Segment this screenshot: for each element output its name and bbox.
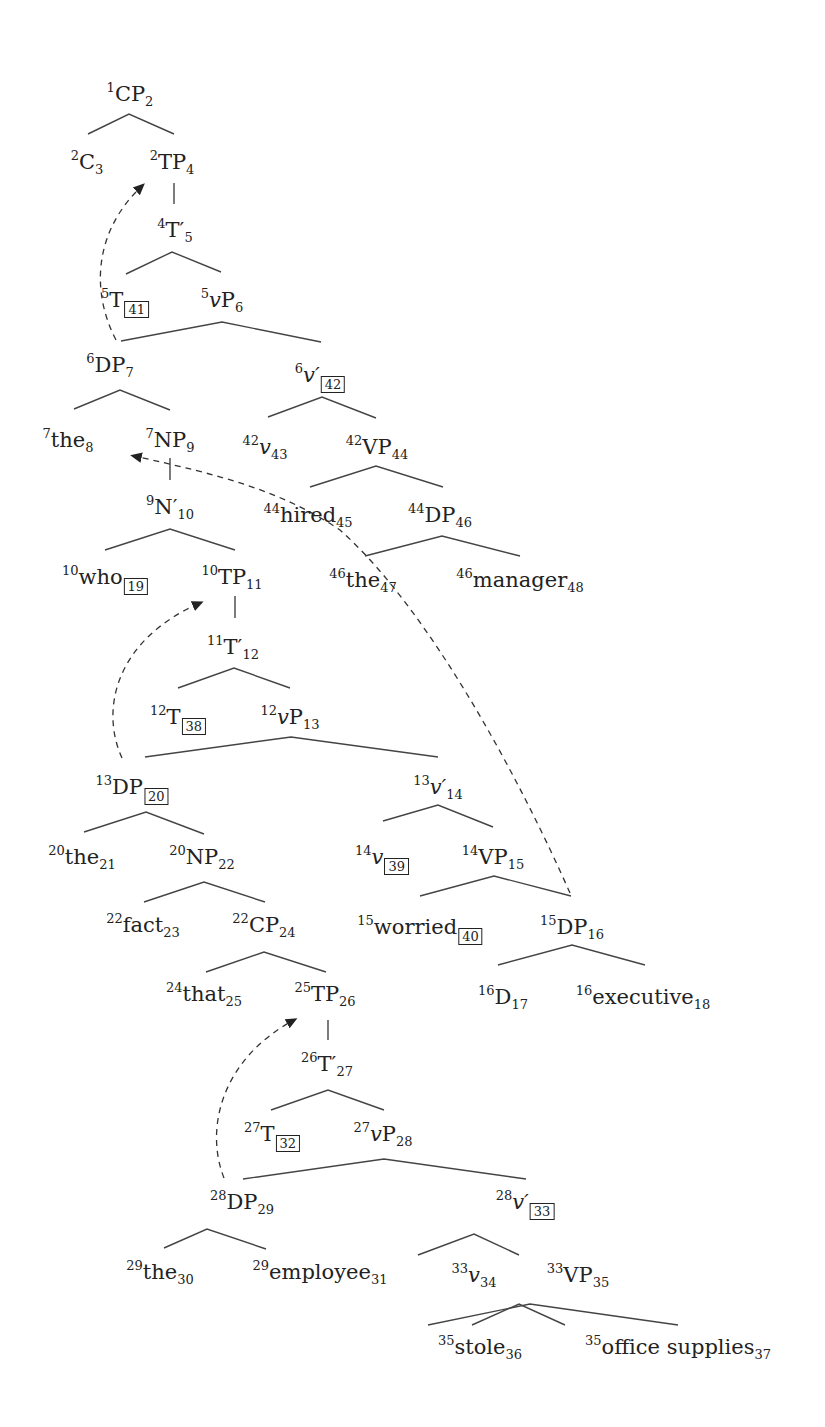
movement-arrow-dp29-to-tp26 (217, 1020, 294, 1178)
node-category: NP (154, 428, 187, 452)
node-post-index: 9 (186, 440, 194, 455)
node-category: DP (112, 775, 143, 799)
node-category: D (495, 985, 512, 1009)
node-post-index: 36 (506, 1347, 523, 1362)
node-category: manager (473, 568, 567, 592)
tree-node-dp2: 13DP20 (95, 775, 168, 805)
node-post-index: 25 (225, 994, 242, 1009)
tree-node-cp: 1CP2 (107, 82, 154, 106)
boxed-index: 32 (276, 1135, 301, 1152)
tree-node-nbar: 9N′10 (146, 495, 194, 519)
node-pre-index: 27 (353, 1120, 370, 1135)
node-category: v (372, 845, 384, 869)
node-post-index: 44 (392, 447, 409, 462)
node-pre-index: 27 (244, 1120, 261, 1135)
node-pre-index: 24 (166, 980, 183, 995)
node-category: the (143, 1260, 177, 1284)
tree-node-vp_w: 14VP15 (462, 845, 524, 869)
tree-edges (0, 0, 825, 1427)
node-pre-index: 16 (576, 983, 593, 998)
node-pre-index: 14 (462, 843, 479, 858)
tree-node-v2: 14v39 (355, 845, 409, 875)
node-post-index: 47 (380, 580, 397, 595)
node-pre-index: 12 (150, 703, 167, 718)
tree-node-tp3: 25TP26 (294, 982, 355, 1006)
node-category: office supplies (602, 1335, 755, 1359)
node-pre-index: 11 (207, 633, 224, 648)
node-pre-index: 16 (478, 983, 495, 998)
node-post-index: 3 (95, 162, 103, 177)
node-pre-index: 44 (408, 501, 425, 516)
node-pre-index: 33 (452, 1261, 469, 1276)
tree-node-worried: 15worried40 (357, 915, 482, 945)
tree-node-t2: 12T38 (150, 705, 206, 735)
boxed-index: 41 (124, 301, 149, 318)
node-post-index: 34 (480, 1275, 497, 1290)
node-category: vP (209, 288, 235, 312)
node-post-index: 11 (246, 577, 263, 592)
tree-node-employee: 29employee31 (253, 1260, 388, 1284)
tree-node-v1: 42v43 (243, 435, 288, 459)
node-category: TP (218, 565, 246, 589)
tree-node-np2: 20NP22 (169, 845, 235, 869)
node-category: the (346, 568, 380, 592)
node-category: T′ (224, 635, 243, 659)
node-post-index: 14 (446, 787, 463, 802)
node-post-index: 28 (396, 1134, 413, 1149)
tree-node-the2: 20the21 (48, 845, 116, 869)
node-pre-index: 44 (263, 501, 280, 516)
node-category: VP (362, 435, 391, 459)
node-pre-index: 25 (294, 980, 311, 995)
node-post-index: 30 (177, 1272, 194, 1287)
node-pre-index: 22 (232, 911, 249, 926)
branch-lines-bottom (428, 1304, 678, 1325)
node-category: v′ (512, 1190, 529, 1214)
node-category: fact (123, 913, 164, 937)
tree-node-dp_e: 15DP16 (540, 915, 604, 939)
node-category: CP (115, 82, 145, 106)
tree-node-c: 2C3 (71, 150, 104, 174)
tree-node-vp2: 12vP13 (260, 705, 319, 729)
node-post-index: 10 (177, 507, 194, 522)
tree-node-vbar2: 13v′14 (413, 775, 463, 799)
tree-node-dp1: 6DP7 (86, 353, 134, 377)
node-pre-index: 20 (48, 843, 65, 858)
node-pre-index: 22 (106, 911, 123, 926)
node-pre-index: 28 (210, 1188, 227, 1203)
tree-node-vp_s: 33VP35 (547, 1263, 609, 1287)
node-category: that (183, 982, 226, 1006)
node-post-index: 48 (567, 580, 584, 595)
node-pre-index: 42 (243, 433, 260, 448)
node-category: CP (249, 913, 279, 937)
node-category: the (65, 845, 99, 869)
node-post-index: 15 (508, 857, 525, 872)
node-category: T (260, 1122, 274, 1146)
tree-node-tp1: 2TP4 (150, 150, 195, 174)
tree-node-v3: 33v34 (452, 1263, 497, 1287)
node-pre-index: 14 (355, 843, 372, 858)
node-post-index: 5 (184, 230, 192, 245)
node-pre-index: 29 (126, 1258, 143, 1273)
node-category: T (166, 705, 180, 729)
node-pre-index: 46 (456, 566, 473, 581)
node-post-index: 46 (455, 515, 472, 530)
node-post-index: 12 (242, 647, 259, 662)
node-pre-index: 15 (357, 913, 374, 928)
node-category: VP (563, 1263, 592, 1287)
node-pre-index: 13 (413, 773, 430, 788)
boxed-index: 39 (384, 858, 409, 875)
boxed-index: 33 (530, 1203, 555, 1220)
tree-node-who: 10who19 (62, 565, 148, 595)
node-post-index: 2 (145, 94, 153, 109)
tree-node-vp1: 5vP6 (201, 288, 244, 312)
node-category: the (51, 428, 85, 452)
tree-node-tbar2: 11T′12 (207, 635, 259, 659)
tree-node-t3: 27T32 (244, 1122, 300, 1152)
node-category: employee (269, 1260, 371, 1284)
node-category: TP (311, 982, 339, 1006)
node-category: DP (95, 353, 126, 377)
node-post-index: 45 (336, 515, 353, 530)
node-pre-index: 33 (547, 1261, 564, 1276)
tree-node-the3: 29the30 (126, 1260, 194, 1284)
boxed-index: 20 (144, 788, 169, 805)
